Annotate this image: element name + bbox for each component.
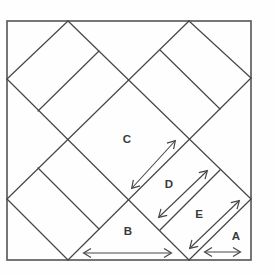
label-b: B (124, 225, 132, 237)
diagram-canvas: ABCDE (0, 0, 276, 274)
long-diagonal-se-line (68, 78, 251, 260)
label-d: D (165, 178, 173, 190)
geometry-diagram: ABCDE (0, 0, 276, 274)
sw-diamond-divider-line (38, 168, 99, 229)
label-c: C (123, 133, 131, 145)
corner-cut-sw-line (7, 199, 68, 260)
ne-diamond-divider-line (160, 50, 220, 109)
long-diagonal-ne-line (7, 21, 189, 199)
corner-cut-ne-line (189, 21, 251, 78)
long-diagonal-nw-line (7, 79, 189, 260)
nw-diamond-divider-line (38, 51, 99, 111)
corner-cut-nw-line (7, 21, 68, 79)
label-e: E (195, 208, 203, 220)
label-a: A (232, 230, 240, 242)
long-diagonal-sw-line (68, 21, 251, 199)
